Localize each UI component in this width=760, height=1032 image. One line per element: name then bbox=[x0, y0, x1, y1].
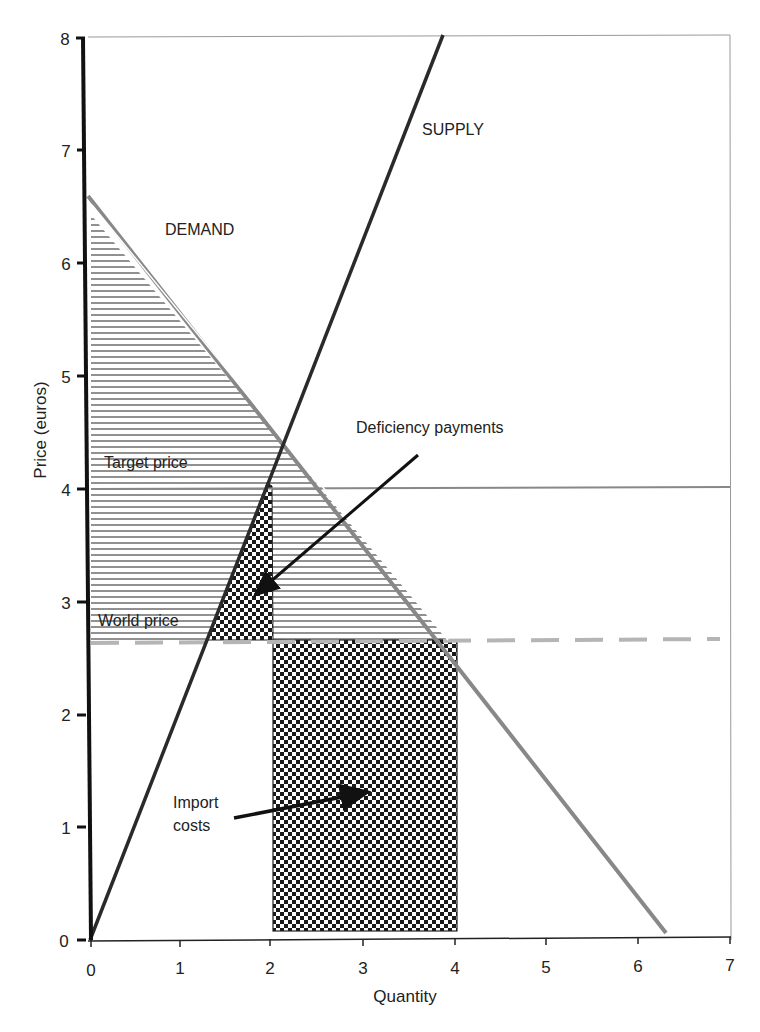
svg-text:5: 5 bbox=[541, 958, 550, 977]
target-price-label: Target price bbox=[104, 454, 188, 471]
y-axis-title: Price (euros) bbox=[31, 381, 50, 478]
svg-text:1: 1 bbox=[61, 819, 70, 838]
svg-text:3: 3 bbox=[61, 594, 70, 613]
svg-text:4: 4 bbox=[61, 481, 70, 500]
supply-label: SUPPLY bbox=[422, 121, 484, 138]
svg-text:7: 7 bbox=[725, 956, 734, 975]
svg-text:4: 4 bbox=[450, 959, 459, 978]
x-axis-title: Quantity bbox=[373, 987, 437, 1006]
svg-text:2: 2 bbox=[61, 706, 70, 725]
y-tick-labels: 0 1 2 3 4 5 6 7 8 bbox=[59, 30, 70, 951]
svg-text:8: 8 bbox=[60, 30, 69, 49]
svg-text:1: 1 bbox=[175, 959, 184, 978]
import-costs-label-line2: costs bbox=[173, 817, 210, 834]
x-tick-labels: 0 1 2 3 4 5 6 7 bbox=[86, 956, 734, 980]
svg-text:3: 3 bbox=[358, 959, 367, 978]
svg-text:5: 5 bbox=[61, 368, 70, 387]
x-axis bbox=[88, 937, 731, 941]
svg-text:6: 6 bbox=[633, 957, 642, 976]
import-costs-region bbox=[273, 640, 457, 931]
svg-text:0: 0 bbox=[59, 932, 68, 951]
svg-text:7: 7 bbox=[61, 142, 70, 161]
svg-text:2: 2 bbox=[265, 959, 274, 978]
demand-label: DEMAND bbox=[165, 221, 234, 238]
chart-canvas: 0 1 2 3 4 5 6 7 8 0 1 2 3 4 5 6 7 Quanti… bbox=[0, 0, 760, 1032]
svg-text:6: 6 bbox=[61, 255, 70, 274]
plot-frame-top bbox=[88, 35, 730, 37]
plot-frame-right bbox=[730, 35, 731, 940]
world-price-label: World price bbox=[98, 612, 179, 629]
deficiency-payments-label: Deficiency payments bbox=[356, 419, 504, 436]
import-costs-label-line1: Import bbox=[173, 794, 219, 811]
svg-text:0: 0 bbox=[86, 961, 95, 980]
